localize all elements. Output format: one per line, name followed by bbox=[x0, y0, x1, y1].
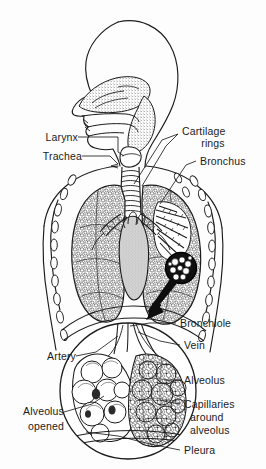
larynx bbox=[120, 147, 141, 167]
label-bronchiole: Bronchiole bbox=[180, 317, 231, 330]
respiratory-system-figure: Larynx Trachea Cartilage rings Bronchus … bbox=[0, 0, 266, 469]
label-capillaries-line3: alveolus bbox=[190, 424, 230, 437]
label-larynx: Larynx bbox=[8, 131, 78, 144]
label-pleura: Pleura bbox=[184, 444, 215, 457]
label-alveolus: Alveolus bbox=[184, 374, 225, 387]
label-alveolus-opened-line1: Alveolus bbox=[0, 405, 64, 418]
label-capillaries-line2: around bbox=[190, 411, 224, 424]
label-artery: Artery bbox=[4, 350, 76, 363]
label-cartilage-rings-line2: rings bbox=[182, 137, 244, 150]
label-bronchus: Bronchus bbox=[200, 155, 246, 168]
label-cartilage-rings-line1: Cartilage bbox=[182, 125, 225, 138]
label-trachea: Trachea bbox=[8, 150, 82, 163]
magnifier-circle-small bbox=[166, 253, 197, 284]
label-vein: Vein bbox=[184, 339, 205, 352]
label-capillaries-line1: Capillaries bbox=[184, 398, 235, 411]
label-alveolus-opened-line2: opened bbox=[0, 420, 64, 433]
